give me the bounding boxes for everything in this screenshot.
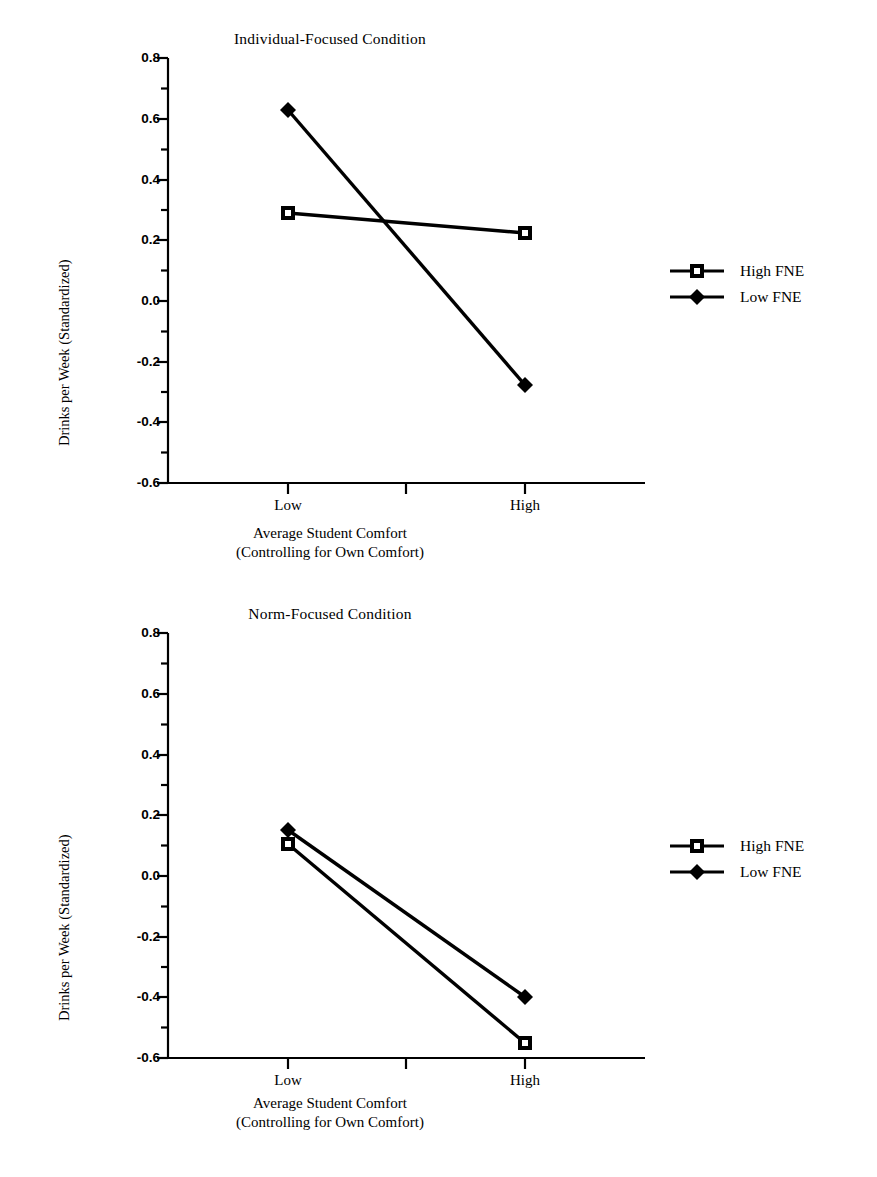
legend: High FNE Low FNE xyxy=(668,833,804,885)
chart-panel-norm-focused: Norm-Focused Condition Drinks per Week (… xyxy=(0,588,877,1177)
figure-page: Individual-Focused Condition Drinks per … xyxy=(0,0,877,1177)
x-tick-label-high: High xyxy=(485,497,565,514)
legend-marker-filled-diamond xyxy=(668,286,726,308)
legend-marker-open-square xyxy=(668,260,726,282)
series-high-fne xyxy=(281,206,532,240)
legend-item-high-fne[interactable]: High FNE xyxy=(668,258,804,284)
x-axis-title-line1: Average Student Comfort xyxy=(253,1095,407,1111)
x-axis-ticks xyxy=(288,1058,525,1069)
legend-marker-filled-diamond xyxy=(668,861,726,883)
legend-item-low-fne[interactable]: Low FNE xyxy=(668,284,804,310)
x-axis-title: Average Student Comfort (Controlling for… xyxy=(0,524,660,562)
legend-label-high-fne: High FNE xyxy=(740,837,804,855)
legend-label-high-fne: High FNE xyxy=(740,262,804,280)
series-low-fne xyxy=(280,102,533,393)
legend: High FNE Low FNE xyxy=(668,258,804,310)
x-axis-title-line2: (Controlling for Own Comfort) xyxy=(0,1113,660,1132)
series-high-fne xyxy=(281,837,532,1050)
legend-label-low-fne: Low FNE xyxy=(740,288,802,306)
x-axis-title: Average Student Comfort (Controlling for… xyxy=(0,1094,660,1132)
x-axis-title-line1: Average Student Comfort xyxy=(253,525,407,541)
x-tick-label-high: High xyxy=(485,1072,565,1089)
legend-item-high-fne[interactable]: High FNE xyxy=(668,833,804,859)
legend-item-low-fne[interactable]: Low FNE xyxy=(668,859,804,885)
chart-panel-individual-focused: Individual-Focused Condition Drinks per … xyxy=(0,0,877,588)
legend-label-low-fne: Low FNE xyxy=(740,863,802,881)
legend-marker-open-square xyxy=(668,835,726,857)
x-tick-label-low: Low xyxy=(248,497,328,514)
x-axis-ticks xyxy=(288,483,525,494)
series-low-fne xyxy=(280,822,533,1005)
x-tick-label-low: Low xyxy=(248,1072,328,1089)
x-axis-title-line2: (Controlling for Own Comfort) xyxy=(0,543,660,562)
